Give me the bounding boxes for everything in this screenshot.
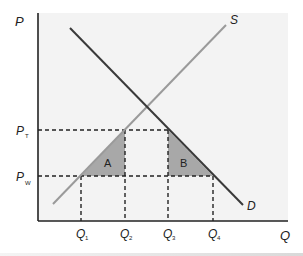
- supply-label: S: [230, 13, 238, 27]
- svg-text:Q: Q: [76, 227, 85, 241]
- svg-text:W: W: [25, 180, 31, 186]
- svg-text:Q: Q: [208, 227, 217, 241]
- svg-text:Q: Q: [163, 227, 172, 241]
- tariff-diagram: P Q S D A B P T P W Q 1 Q 2 Q 3 Q 4: [0, 0, 303, 256]
- svg-text:P: P: [16, 124, 24, 138]
- y-axis-label: P: [15, 14, 24, 29]
- svg-text:T: T: [25, 133, 29, 139]
- svg-text:1: 1: [85, 235, 89, 241]
- pt-label: P T: [16, 124, 29, 139]
- area-b-label: B: [180, 157, 187, 169]
- svg-text:Q: Q: [120, 227, 129, 241]
- svg-text:4: 4: [217, 235, 221, 241]
- plot-area: [38, 13, 288, 221]
- q1-label: Q 1: [76, 227, 89, 241]
- demand-label: D: [247, 199, 256, 213]
- svg-text:3: 3: [172, 235, 176, 241]
- x-axis-label: Q: [280, 228, 290, 243]
- pw-label: P W: [16, 170, 31, 186]
- q4-label: Q 4: [208, 227, 221, 241]
- svg-text:2: 2: [129, 235, 133, 241]
- svg-text:P: P: [16, 170, 24, 184]
- q2-label: Q 2: [120, 227, 133, 241]
- q3-label: Q 3: [163, 227, 176, 241]
- area-a-label: A: [104, 157, 112, 169]
